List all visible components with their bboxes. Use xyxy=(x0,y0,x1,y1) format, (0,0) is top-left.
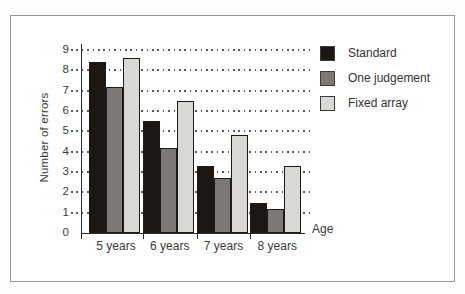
gridline-9 xyxy=(71,49,311,51)
x-axis-tick-0 xyxy=(81,233,82,239)
y-tick-label-8: 8 xyxy=(49,63,69,75)
legend-label-fixed-array: Fixed array xyxy=(348,96,408,110)
bar-standard-7-years xyxy=(197,166,214,233)
gridline-8 xyxy=(71,69,311,71)
chart-frame: Number of errors 0123456789 5 years6 yea… xyxy=(10,15,455,282)
figure-page: { "chart_data": { "type": "bar", "title"… xyxy=(0,0,465,294)
bar-fixed-array-6-years xyxy=(177,101,194,233)
y-tick-label-4: 4 xyxy=(49,145,69,157)
bar-fixed-array-5-years xyxy=(123,58,140,233)
y-tick-label-7: 7 xyxy=(49,84,69,96)
legend-label-standard: Standard xyxy=(348,46,397,60)
bar-one-judgement-8-years xyxy=(267,209,284,233)
bar-standard-6-years xyxy=(143,121,160,233)
legend: Standard One judgement Fixed array xyxy=(320,45,430,120)
bar-standard-5-years xyxy=(89,62,106,233)
legend-swatch-fixed-array xyxy=(320,96,335,111)
y-tick-label-9: 9 xyxy=(49,43,69,55)
x-category-label-5-years: 5 years xyxy=(89,239,143,253)
bar-fixed-array-8-years xyxy=(284,166,301,233)
legend-swatch-one-judgement xyxy=(320,71,335,86)
legend-item-standard: Standard xyxy=(320,45,430,61)
bar-fixed-array-7-years xyxy=(231,135,248,233)
legend-item-one-judgement: One judgement xyxy=(320,70,430,86)
x-axis-title: Age xyxy=(312,222,333,236)
legend-swatch-standard xyxy=(320,46,335,61)
y-tick-label-1: 1 xyxy=(49,206,69,218)
y-tick-label-2: 2 xyxy=(49,185,69,197)
bar-standard-8-years xyxy=(250,203,267,233)
y-tick-label-6: 6 xyxy=(49,104,69,116)
x-category-label-7-years: 7 years xyxy=(197,239,251,253)
x-category-label-6-years: 6 years xyxy=(143,239,197,253)
x-category-label-8-years: 8 years xyxy=(250,239,304,253)
legend-label-one-judgement: One judgement xyxy=(348,71,430,85)
y-tick-label-5: 5 xyxy=(49,124,69,136)
bar-one-judgement-6-years xyxy=(160,148,177,233)
bar-one-judgement-5-years xyxy=(106,87,123,233)
y-axis-line xyxy=(81,44,82,233)
bar-one-judgement-7-years xyxy=(214,178,231,233)
y-tick-label-3: 3 xyxy=(49,165,69,177)
legend-item-fixed-array: Fixed array xyxy=(320,95,430,111)
y-tick-label-0: 0 xyxy=(49,226,69,238)
